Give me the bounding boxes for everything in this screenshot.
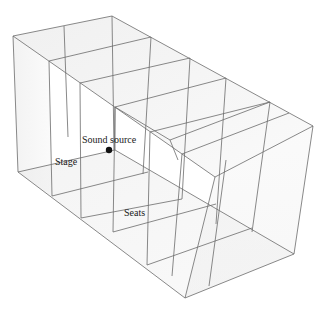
concert-hall-diagram: Sound source Stage Seats	[0, 0, 324, 310]
sound-source-dot	[106, 147, 112, 153]
stage-label: Stage	[55, 156, 78, 167]
seats-label: Seats	[124, 207, 145, 218]
sound-source-label: Sound source	[82, 134, 137, 145]
